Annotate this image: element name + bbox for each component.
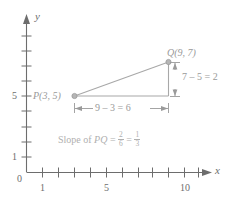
run-arrow-right <box>161 106 168 111</box>
x-tick-label-1: 1 <box>40 183 45 193</box>
slope-equation: Slope of PQ = 26 = 13 <box>58 131 140 148</box>
x-tick-label-10: 10 <box>180 183 190 193</box>
slope-equals-1: = <box>107 134 118 145</box>
run-arrow-left <box>75 106 82 111</box>
slope-diagram: y x 0 1 5 10 1 5 P(3, 5) Q(9, 7) 9 – 3 =… <box>0 0 229 206</box>
fraction-denominator-3: 3 <box>134 139 140 148</box>
slope-triangle <box>75 62 169 96</box>
point-p-label: P(3, 5) <box>33 91 61 101</box>
point-p <box>72 93 77 98</box>
x-tick-label-5: 5 <box>104 183 109 193</box>
slope-prefix: Slope of <box>58 134 94 145</box>
fraction-numerator-1: 1 <box>134 131 140 139</box>
origin-label: 0 <box>17 174 22 184</box>
y-tick-label-5: 5 <box>12 91 17 101</box>
y-axis-arrowhead <box>23 14 30 24</box>
point-q-label: Q(9, 7) <box>167 48 196 58</box>
slope-fraction-1-3: 13 <box>134 131 140 148</box>
point-q <box>166 59 171 64</box>
y-axis-label: y <box>35 11 40 22</box>
slope-equals-2: = <box>124 134 135 145</box>
slope-segment-name: PQ <box>94 134 107 145</box>
rise-arrow-down <box>173 90 178 97</box>
segment-pq <box>75 62 169 96</box>
x-axis-arrowhead <box>202 169 212 176</box>
x-axis-label: x <box>215 165 220 176</box>
rise-label: 7 – 5 = 2 <box>182 72 218 82</box>
rise-arrow-up <box>173 63 178 70</box>
run-label: 9 – 3 = 6 <box>95 103 131 113</box>
y-tick-label-1: 1 <box>12 152 17 162</box>
